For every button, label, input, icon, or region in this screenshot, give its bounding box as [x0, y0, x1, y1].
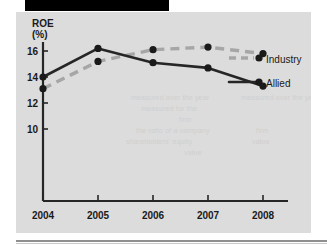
series-line-allied-path [43, 48, 263, 86]
data-point-allied-2007 [204, 64, 211, 71]
data-point-allied-2004 [39, 73, 46, 80]
data-point-industry-2004 [39, 85, 46, 92]
legend-marker-allied [255, 78, 262, 85]
data-point-allied-2005 [94, 45, 101, 52]
top-banner-bar [25, 0, 169, 11]
line-chart-svg [16, 12, 311, 233]
data-point-allied-2006 [149, 59, 156, 66]
legend-marker-industry [255, 54, 262, 61]
bottom-divider-rule-shadow [16, 243, 327, 244]
bottom-divider-rule [16, 240, 327, 242]
data-point-industry-2006 [149, 46, 156, 53]
data-point-industry-2005 [94, 58, 101, 65]
data-point-industry-2007 [204, 44, 211, 51]
chart-figure-panel: measured over the year measured for the … [16, 12, 311, 233]
